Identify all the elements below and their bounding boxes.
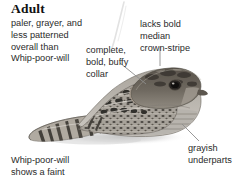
page-title: Adult <box>11 2 45 16</box>
annotation-comparison-note: paler, grayer, and less patterned overal… <box>11 18 97 65</box>
bird-eye <box>169 80 182 90</box>
bird-bill <box>197 90 208 96</box>
annotation-collar: complete, bold, buffy collar <box>86 45 138 80</box>
annotation-bottom-cutoff: Whip-poor-will shows a faint <box>11 155 107 175</box>
annotation-crown-stripe: lacks bold median crown-stripe <box>140 19 210 54</box>
annotation-grayish-underparts: grayish underparts <box>188 143 236 167</box>
field-guide-figure: Adult paler, grayer, and less patterned … <box>0 0 236 175</box>
